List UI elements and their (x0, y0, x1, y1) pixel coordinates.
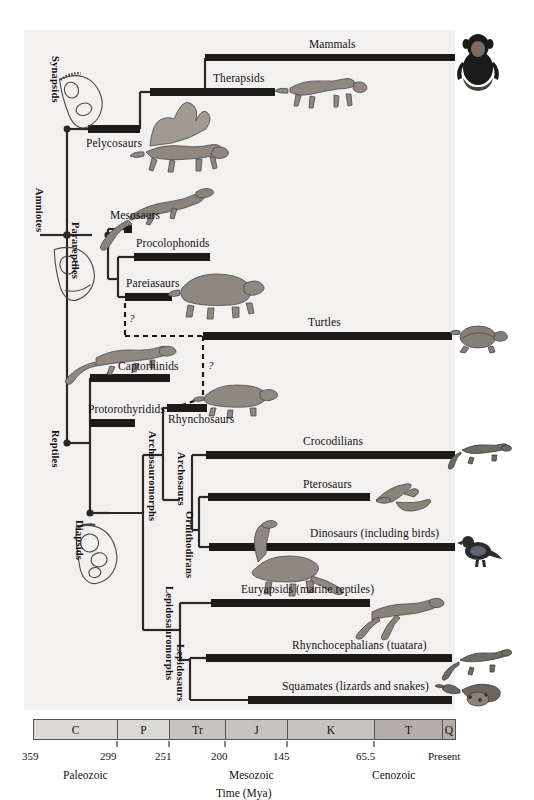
axis-tick-label-299: 299 (100, 751, 117, 762)
era-label-paleozoic: Paleozoic (63, 770, 108, 782)
axis-tick-label-359: 359 (22, 751, 39, 762)
axis-title-time: Time (Mya) (216, 788, 271, 800)
figure-amniote-phylogeny: Mammals Therapsids Pelycosaurs Mesosaurs… (0, 0, 534, 800)
axis-tick-label-200: 200 (211, 751, 228, 762)
axis-ticks (0, 0, 534, 800)
axis-tick-label-present: Present (428, 751, 460, 762)
axis-tick-label-65-5: 65.5 (356, 751, 375, 762)
axis-tick-label-145: 145 (273, 751, 290, 762)
era-label-mesozoic: Mesozoic (229, 770, 274, 782)
era-label-cenozoic: Cenozoic (372, 770, 415, 782)
axis-tick-label-251: 251 (155, 751, 172, 762)
